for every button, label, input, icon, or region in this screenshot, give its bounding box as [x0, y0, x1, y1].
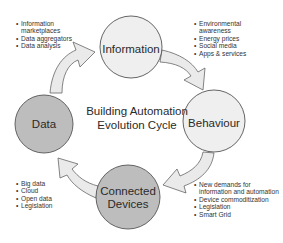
node-behaviour-label: Behaviour [188, 117, 240, 129]
diagram-title: Building Automation Evolution Cycle [86, 104, 188, 132]
bullet-item: New demands for information and automati… [194, 181, 280, 196]
bullet-item: Data analysis [16, 42, 78, 49]
node-connected-devices-line-1: Connected [100, 185, 156, 198]
bullet-item: Social media [194, 42, 254, 49]
bullet-item: Apps & services [194, 50, 254, 57]
bullet-item: Open data [16, 195, 66, 202]
bullets-data-to-information: Information marketplaces Data aggregator… [16, 20, 78, 50]
bullets-devices-to-data: Big data Cloud Open data Legislation [16, 180, 66, 210]
bullets-behaviour-to-devices: New demands for information and automati… [194, 181, 280, 218]
diagram-title-line-2: Evolution Cycle [86, 118, 188, 132]
bullet-item: Data aggregators [16, 35, 78, 42]
arrow-data-to-information [50, 42, 95, 93]
bullet-item: Smart Grid [194, 211, 280, 218]
bullets-information-to-behaviour: Environmental awareness Energy prices So… [194, 20, 254, 57]
node-connected-devices-line-2: Devices [100, 198, 156, 211]
bullet-item: Information marketplaces [16, 20, 78, 35]
bullet-item: Energy prices [194, 35, 254, 42]
bullet-item: Legislation [194, 203, 280, 210]
bullet-item: Environmental awareness [194, 20, 254, 35]
diagram-title-line-1: Building Automation [86, 104, 188, 118]
bullet-item: Device commoditization [194, 196, 280, 203]
node-connected-devices-label: Connected Devices [100, 185, 156, 211]
node-data-label: Data [32, 118, 56, 130]
bullet-item: Cloud [16, 187, 66, 194]
bullet-item: Legislation [16, 202, 66, 209]
node-information-label: Information [102, 43, 160, 55]
bullet-item: Big data [16, 180, 66, 187]
